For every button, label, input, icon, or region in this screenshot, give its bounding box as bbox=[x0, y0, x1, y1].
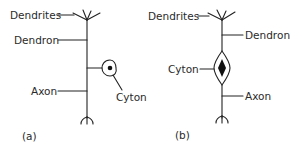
neuron-b-cyton-icon bbox=[214, 51, 230, 85]
neuron-a-dendron-label: Dendron bbox=[14, 34, 59, 46]
neuron-a-axon-label: Axon bbox=[31, 85, 57, 97]
neuron-b-axon-label: Axon bbox=[245, 90, 271, 102]
neuron-b-dendron-label: Dendron bbox=[245, 29, 290, 41]
neuron-b-terminal-icon bbox=[216, 116, 228, 123]
neuron-a: Dendrites Dendron Cyton Axon (a) bbox=[10, 9, 147, 142]
neuron-a-cyton-leader bbox=[113, 75, 122, 90]
neuron-b-dendrites-label: Dendrites bbox=[148, 10, 199, 22]
neuron-b-cyton-label: Cyton bbox=[168, 63, 199, 75]
neuron-a-cyton-icon bbox=[102, 60, 116, 76]
neuron-diagram: Dendrites Dendron Cyton Axon (a) bbox=[0, 0, 295, 149]
neuron-b-dendrites-icon bbox=[208, 10, 235, 20]
neuron-a-dendrites-icon bbox=[73, 10, 100, 20]
neuron-a-cyton-label: Cyton bbox=[116, 91, 147, 103]
neuron-a-terminal-icon bbox=[81, 117, 93, 124]
neuron-b: Dendrites Dendron Cyton Axon (b) bbox=[148, 10, 290, 141]
panel-b-caption: (b) bbox=[175, 129, 190, 141]
panel-a-caption: (a) bbox=[22, 130, 37, 142]
neuron-a-dendrites-label: Dendrites bbox=[10, 9, 61, 21]
